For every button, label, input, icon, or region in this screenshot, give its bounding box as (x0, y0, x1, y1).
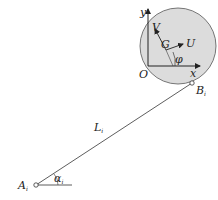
svg-text:Ai: Ai (17, 179, 28, 192)
point-a-subscript: i (26, 185, 28, 192)
phi-label: φ (175, 53, 183, 66)
origin-label: O (139, 68, 148, 81)
x-axis-label: x (190, 67, 197, 80)
center-label: G (161, 38, 170, 51)
point-b-subscript: i (204, 90, 206, 97)
svg-text:Bi: Bi (195, 84, 206, 97)
alpha-subscript: i (61, 178, 63, 185)
v-label: V (152, 21, 161, 34)
joint-a (34, 183, 38, 187)
svg-text:U: U (186, 37, 196, 50)
svg-text:φ: φ (175, 53, 183, 66)
y-axis-label: y (139, 6, 147, 19)
u-label: U (186, 37, 196, 50)
point-a-label: A (17, 179, 26, 192)
link-subscript: i (101, 127, 103, 134)
svg-text:αi: αi (54, 172, 63, 185)
svg-text:Li: Li (93, 121, 103, 134)
diagram-canvas: y x O G U V φ Bi Li Ai αi (0, 0, 218, 200)
svg-text:x: x (190, 67, 197, 80)
point-b-label: B (195, 84, 204, 97)
svg-text:O: O (139, 68, 148, 81)
svg-text:G: G (161, 38, 170, 51)
svg-text:y: y (139, 6, 147, 19)
link-label: L (93, 121, 101, 134)
link-line (36, 83, 192, 185)
svg-text:V: V (152, 21, 161, 34)
joint-b (190, 81, 194, 85)
